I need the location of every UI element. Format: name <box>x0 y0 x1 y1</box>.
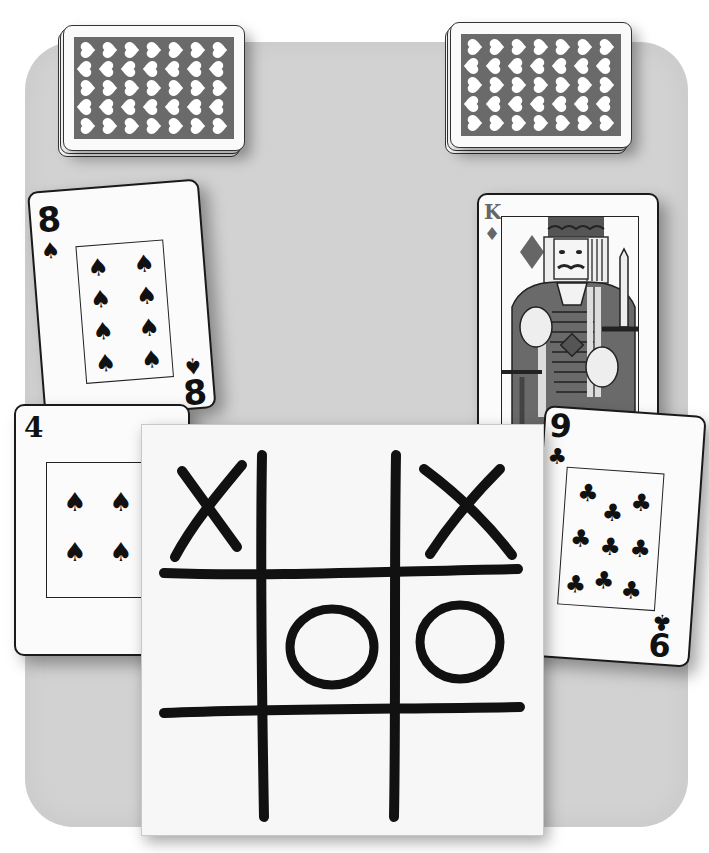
pip-area: ♣♣♣ ♣♣♣ ♣♣♣ <box>557 467 664 611</box>
svg-text:♠: ♠ <box>91 317 115 347</box>
svg-text:♠: ♠ <box>86 253 110 283</box>
card-eight-of-spades[interactable]: 8 ♠ ♠♠ ♠♠ ♠♠ ♠♠ ♠ 8 <box>27 179 217 422</box>
cell-4[interactable] <box>272 585 392 705</box>
svg-text:♣: ♣ <box>592 566 615 595</box>
svg-text:♣: ♣ <box>628 534 651 563</box>
svg-text:♠: ♠ <box>132 249 156 279</box>
o-mark-icon <box>404 580 524 705</box>
spade-pips-icon: ♠♠ ♠♠ ♠♠ ♠♠ <box>76 241 172 383</box>
svg-text:♠: ♠ <box>109 537 132 567</box>
cell-8[interactable] <box>404 720 524 820</box>
svg-text:♠: ♠ <box>140 345 164 375</box>
cell-5[interactable] <box>404 580 524 705</box>
cell-0[interactable] <box>162 455 257 565</box>
card-rank: K <box>484 202 501 222</box>
x-mark-icon <box>162 455 257 565</box>
cell-1[interactable] <box>267 455 392 570</box>
cell-3[interactable] <box>162 580 257 705</box>
card-rank: 8 <box>36 201 62 237</box>
o-mark-icon <box>272 585 392 705</box>
tictactoe-board[interactable] <box>141 424 544 836</box>
svg-text:♣: ♣ <box>599 532 622 561</box>
x-mark-icon <box>404 455 524 570</box>
svg-text:♣: ♣ <box>620 576 643 605</box>
svg-text:♠: ♠ <box>89 285 113 315</box>
spade-icon: ♠ <box>40 240 61 263</box>
cell-2[interactable] <box>404 455 524 570</box>
heart-pattern-icon <box>74 37 234 139</box>
cell-7[interactable] <box>272 720 392 820</box>
card-rank: 4 <box>24 414 43 442</box>
club-icon: ♣ <box>547 445 568 468</box>
heart-pattern-icon <box>461 34 621 136</box>
svg-text:♠: ♠ <box>109 487 132 517</box>
card-rank: 6 <box>647 629 671 662</box>
club-pips-icon: ♣♣♣ ♣♣♣ ♣♣♣ <box>558 468 663 610</box>
card-nine-of-clubs[interactable]: 9 ♣ ♣♣♣ ♣♣♣ ♣♣♣ ♣ 6 <box>527 405 706 668</box>
card-deck-right[interactable] <box>445 22 631 152</box>
svg-text:♣: ♣ <box>601 498 624 527</box>
pip-area: ♠♠ ♠♠ ♠♠ ♠♠ <box>75 239 174 383</box>
svg-text:♠: ♠ <box>63 487 86 517</box>
card-deck-left[interactable] <box>58 25 244 155</box>
svg-text:♠: ♠ <box>137 313 161 343</box>
svg-text:♠: ♠ <box>94 349 118 379</box>
svg-text:♠: ♠ <box>135 281 159 311</box>
card-rank: 9 <box>548 409 572 442</box>
diamond-icon: ♦ <box>484 225 500 243</box>
svg-text:♣: ♣ <box>569 524 592 553</box>
cell-6[interactable] <box>162 720 257 820</box>
svg-text:♠: ♠ <box>63 537 86 567</box>
svg-text:♣: ♣ <box>564 570 587 599</box>
svg-text:♣: ♣ <box>576 478 599 507</box>
svg-text:♣: ♣ <box>630 488 653 517</box>
